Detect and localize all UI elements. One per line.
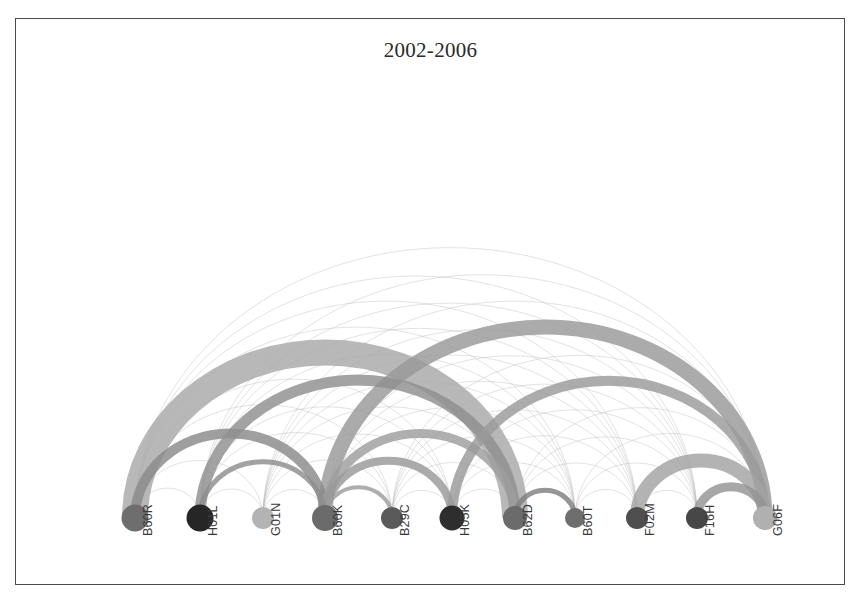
node-label-g01n: G01N: [269, 503, 283, 536]
node-label-h05k: H05K: [458, 504, 472, 536]
node-label-b60k: B60K: [331, 505, 345, 536]
minor-arc: [135, 276, 697, 518]
node-label-f02m: F02M: [643, 503, 657, 536]
node-label-h01l: H01L: [206, 505, 220, 536]
node-label-f16h: F16H: [703, 505, 717, 536]
node-label-b60t: B60T: [581, 505, 595, 536]
node-label-g06f: G06F: [771, 504, 785, 536]
minor-arc: [263, 434, 452, 518]
node-label-b29c: B29C: [398, 504, 412, 536]
node-label-b60r: B60R: [141, 504, 155, 536]
node-label-b62d: B62D: [521, 504, 535, 536]
arc-diagram: [0, 0, 861, 600]
